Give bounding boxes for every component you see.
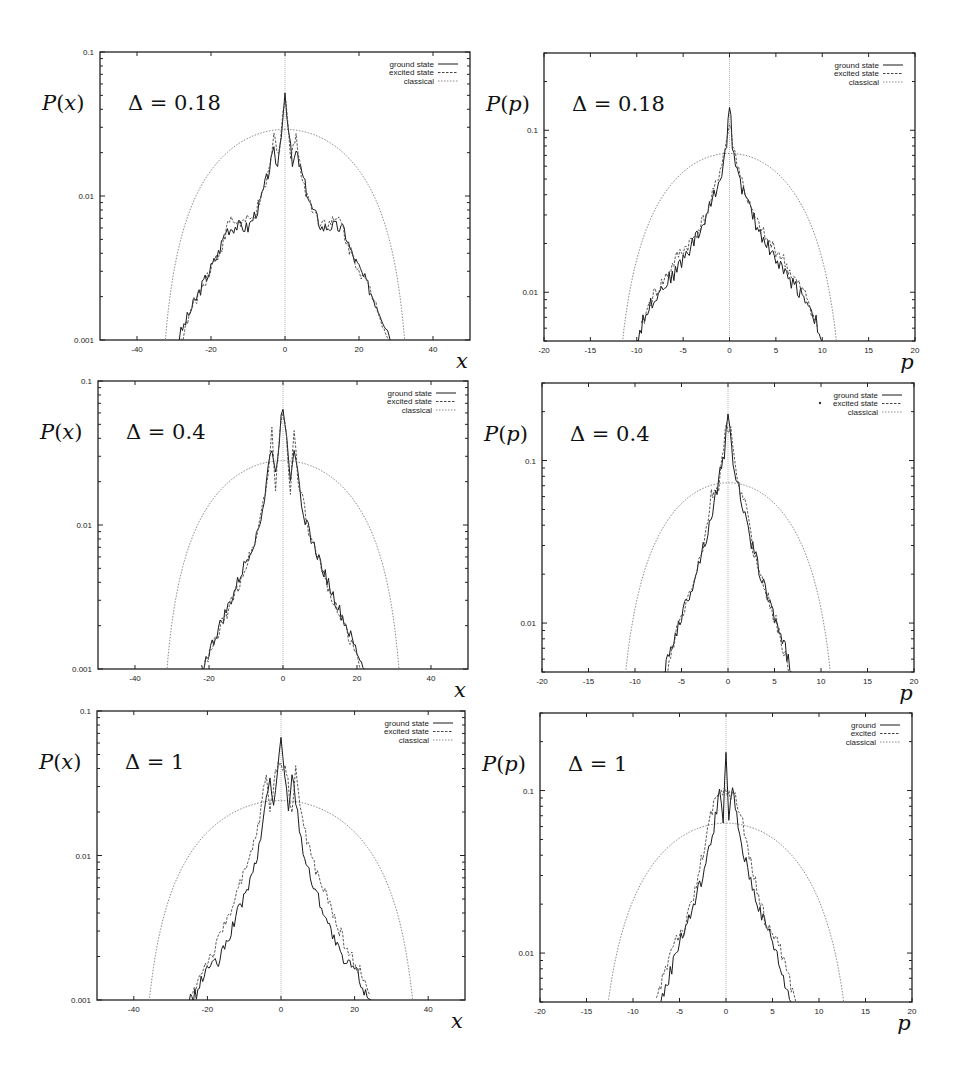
x-tick-label: 10 xyxy=(817,677,826,686)
y-tick-label: 0.01 xyxy=(518,949,534,958)
legend-label: classical xyxy=(846,738,876,747)
y-tick-label: 0.01 xyxy=(520,619,536,628)
legend-label: classical xyxy=(404,77,434,86)
x-axis-label: x xyxy=(454,678,466,702)
y-axis-label: P(x) xyxy=(38,750,81,774)
x-axis-label: p xyxy=(897,1011,910,1035)
x-tick-label: 40 xyxy=(429,345,438,354)
y-axis-label: P(p) xyxy=(483,422,528,446)
delta-annotation: Δ = 1 xyxy=(568,752,627,776)
x-tick-label: -15 xyxy=(585,346,597,355)
x-tick-label: 20 xyxy=(355,345,364,354)
x-tick-label: 0 xyxy=(279,1005,284,1014)
x-tick-label: -15 xyxy=(583,677,595,686)
x-tick-label: 10 xyxy=(818,346,827,355)
scan-dot xyxy=(819,402,821,404)
legend-label: classical xyxy=(849,78,879,87)
y-axis-label: P(p) xyxy=(481,752,526,776)
x-tick-label: -20 xyxy=(538,346,550,355)
y-tick-label: 0.1 xyxy=(525,457,537,466)
chart-panel-p-delta-0.4: -20-15-10-5051015200.010.1ground stateex… xyxy=(483,383,919,705)
delta-annotation: Δ = 1 xyxy=(125,750,184,774)
x-tick-label: 5 xyxy=(772,677,777,686)
y-axis-label: P(x) xyxy=(39,420,82,444)
y-tick-label: 0.1 xyxy=(527,126,539,135)
x-tick-label: 0 xyxy=(724,1007,729,1016)
x-tick-label: 5 xyxy=(774,346,779,355)
x-tick-label: 20 xyxy=(353,674,362,683)
legend: ground stateexcited stateclassical xyxy=(834,61,903,87)
x-tick-label: 0 xyxy=(726,677,731,686)
delta-annotation: Δ = 0.18 xyxy=(128,91,221,115)
x-tick-label: 0 xyxy=(281,674,286,683)
y-tick-label: 0.001 xyxy=(72,665,93,674)
legend: groundexcitedclassical xyxy=(846,721,900,747)
chart-panel-p-delta-0.18: -20-15-10-5051015200.010.1ground stateex… xyxy=(485,53,920,374)
chart-panel-p-delta-1: -20-15-10-5051015200.010.1groundexcitedc… xyxy=(481,713,917,1035)
excited-state-curve xyxy=(668,423,789,675)
x-tick-label: -20 xyxy=(202,1005,214,1014)
legend: ground stateexcited stateclassical xyxy=(384,719,453,745)
x-tick-label: -40 xyxy=(129,674,141,683)
x-tick-label: -20 xyxy=(536,677,548,686)
legend-label: classical xyxy=(399,736,429,745)
legend-label: classical xyxy=(402,406,432,415)
x-tick-label: 15 xyxy=(864,346,873,355)
y-tick-label: 0.1 xyxy=(81,377,93,386)
x-tick-label: -15 xyxy=(581,1007,593,1016)
chart-panel-x-delta-1: -40-20020400.0010.010.1ground stateexcit… xyxy=(38,707,465,1033)
y-tick-label: 0.01 xyxy=(75,852,91,861)
ground-state-curve xyxy=(637,107,823,341)
x-tick-label: 40 xyxy=(424,1005,433,1014)
classical-curve xyxy=(594,823,858,1018)
y-tick-label: 0.01 xyxy=(522,288,538,297)
delta-annotation: Δ = 0.18 xyxy=(572,92,665,116)
figure-grid: -40-20020400.0010.010.1ground stateexcit… xyxy=(0,0,962,1078)
y-tick-label: 0.01 xyxy=(76,521,92,530)
y-axis-label: P(p) xyxy=(485,92,530,116)
legend-label: classical xyxy=(848,408,878,417)
y-tick-label: 0.001 xyxy=(71,996,92,1005)
y-tick-label: 0.001 xyxy=(74,336,95,345)
x-axis-label: p xyxy=(900,350,913,374)
x-axis-label: x xyxy=(456,349,468,373)
x-axis-label: p xyxy=(899,681,912,705)
chart-panel-x-delta-0.4: -40-20020400.0010.010.1ground stateexcit… xyxy=(39,377,468,702)
x-tick-label: -20 xyxy=(205,345,217,354)
x-tick-label: -20 xyxy=(203,674,215,683)
y-axis-label: P(x) xyxy=(41,91,84,115)
x-tick-label: 0 xyxy=(727,346,732,355)
x-tick-label: 10 xyxy=(815,1007,824,1016)
x-axis-label: x xyxy=(451,1009,463,1033)
x-tick-label: 5 xyxy=(770,1007,775,1016)
x-tick-label: -10 xyxy=(631,346,643,355)
x-tick-label: 15 xyxy=(863,677,872,686)
x-tick-label: -5 xyxy=(678,677,686,686)
legend: ground stateexcited stateclassical xyxy=(387,389,456,415)
x-tick-label: -20 xyxy=(534,1007,546,1016)
delta-annotation: Δ = 0.4 xyxy=(126,420,206,444)
x-tick-label: -40 xyxy=(128,1005,140,1014)
x-tick-label: -5 xyxy=(680,346,688,355)
legend: ground stateexcited stateclassical xyxy=(389,60,458,86)
chart-panel-x-delta-0.18: -40-20020400.0010.010.1ground stateexcit… xyxy=(41,48,470,373)
x-tick-label: 20 xyxy=(350,1005,359,1014)
y-tick-label: 0.1 xyxy=(523,787,535,796)
x-tick-label: -10 xyxy=(627,1007,639,1016)
y-tick-label: 0.1 xyxy=(83,48,95,57)
x-tick-label: -40 xyxy=(131,345,143,354)
delta-annotation: Δ = 0.4 xyxy=(570,422,650,446)
ground-state-curve xyxy=(202,409,365,671)
legend: ground stateexcited stateclassical xyxy=(833,391,902,417)
y-tick-label: 0.1 xyxy=(80,707,92,716)
x-tick-label: 0 xyxy=(283,345,288,354)
x-tick-label: -10 xyxy=(629,677,641,686)
x-tick-label: 40 xyxy=(427,674,436,683)
y-tick-label: 0.01 xyxy=(78,192,94,201)
x-tick-label: -5 xyxy=(676,1007,684,1016)
x-tick-label: 15 xyxy=(861,1007,870,1016)
